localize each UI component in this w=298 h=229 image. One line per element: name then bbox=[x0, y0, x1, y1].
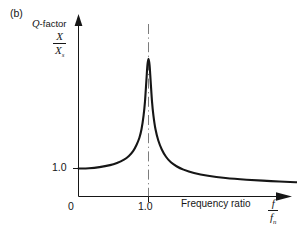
q-symbol: Q bbox=[32, 18, 40, 29]
x-axis-denominator: fn bbox=[268, 212, 278, 225]
resonance-curve bbox=[79, 59, 298, 183]
y-axis-denominator: Xs bbox=[53, 45, 66, 58]
y-axis-ratio-label: X Xs bbox=[53, 31, 66, 58]
origin-label: 0 bbox=[68, 201, 74, 212]
y-axis-numerator: X bbox=[53, 31, 66, 43]
x-axis-numerator: f bbox=[268, 198, 278, 210]
x-axis-ratio-label: f fn bbox=[268, 198, 278, 225]
x-axis-denominator-subscript: n bbox=[273, 218, 276, 225]
figure-container: (b) Q-factor X Xs 1.0 0 1.0 Frequency ra… bbox=[0, 0, 297, 229]
resonance-plot bbox=[0, 0, 297, 229]
panel-label: (b) bbox=[10, 8, 23, 19]
x-axis-title: Frequency ratio bbox=[181, 199, 250, 209]
y-axis-denominator-subscript: s bbox=[62, 51, 65, 58]
y-axis-denominator-symbol: X bbox=[55, 44, 62, 56]
y-tick-label-1-0: 1.0 bbox=[52, 162, 67, 173]
q-factor-suffix: -factor bbox=[40, 18, 67, 29]
x-tick-label-1-0: 1.0 bbox=[138, 201, 153, 212]
y-axis-arrowhead bbox=[75, 14, 83, 26]
y-axis-title: Q-factor bbox=[32, 19, 67, 30]
